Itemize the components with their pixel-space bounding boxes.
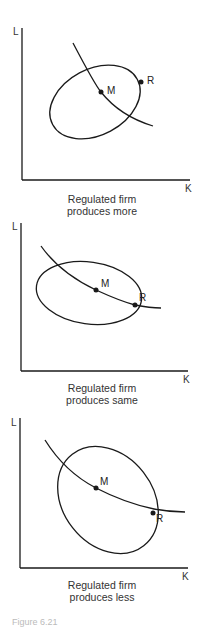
- point-m: [94, 288, 99, 293]
- point-m: [94, 486, 99, 491]
- point-m-label: M: [107, 85, 115, 96]
- point-r-label: R: [147, 75, 154, 86]
- point-r: [151, 511, 156, 516]
- panel-produces-more: L K M R Regulated firm produces more: [0, 0, 204, 205]
- figure-caption: Figure 6.21: [12, 617, 58, 627]
- point-r: [133, 303, 138, 308]
- point-m: [99, 90, 104, 95]
- isocost-ellipse: [32, 255, 146, 331]
- isocost-ellipse: [37, 427, 179, 574]
- diagram-panel-1: [0, 0, 204, 205]
- point-r-label: R: [156, 513, 163, 524]
- diagram-panel-2: [0, 205, 204, 405]
- isocost-ellipse: [37, 50, 153, 153]
- point-r-label: R: [139, 292, 146, 303]
- panel-produces-less: L K M R Regulated firm produces less: [0, 405, 204, 617]
- y-axis-label: L: [11, 417, 17, 428]
- point-r: [139, 80, 144, 85]
- panel-caption: Regulated firm produces less: [0, 579, 204, 603]
- y-axis-label: L: [13, 26, 19, 37]
- panel-produces-same: L K M R Regulated firm produces same: [0, 205, 204, 405]
- panel-caption: Regulated firm produces same: [0, 382, 204, 406]
- y-axis-label: L: [12, 221, 18, 232]
- point-m-label: M: [100, 476, 108, 487]
- point-m-label: M: [101, 278, 109, 289]
